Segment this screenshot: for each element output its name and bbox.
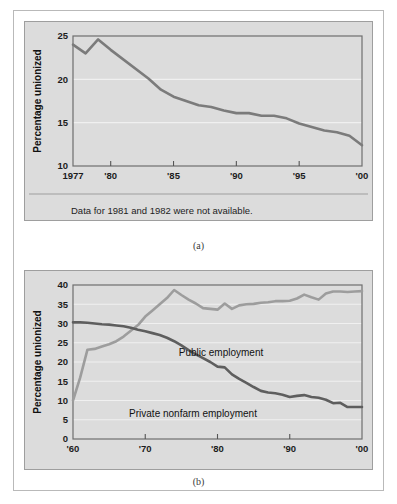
x-tick-label: '90	[283, 443, 296, 454]
y-tick-label: 40	[57, 279, 68, 290]
x-tick-label: '60	[67, 443, 80, 454]
figure-root: 101520251977'80'85'90'95'00Percentage un…	[0, 0, 397, 504]
y-tick-label: 30	[57, 318, 68, 329]
x-tick-label: '90	[230, 170, 243, 181]
y-tick-label: 5	[63, 414, 69, 425]
y-axis-title: Percentage unionized	[32, 310, 43, 413]
chart-b-panel: 0510152025303540'60'70'80'90'00Percentag…	[24, 270, 373, 470]
chart-note: Data for 1981 and 1982 were not availabl…	[71, 205, 253, 216]
y-axis: 0510152025303540	[57, 279, 68, 444]
y-tick-label: 25	[57, 30, 68, 41]
chart-a-plot: 101520251977'80'85'90'95'00Percentage un…	[25, 22, 372, 220]
y-tick-label: 20	[57, 356, 68, 367]
x-tick-label: 1977	[62, 170, 83, 181]
x-tick-label: '00	[356, 443, 369, 454]
y-tick-label: 15	[57, 117, 68, 128]
x-tick-label: '70	[139, 443, 152, 454]
y-tick-label: 20	[57, 74, 68, 85]
series-annotation-1: Private nonfarm employment	[129, 408, 257, 419]
chart-b-plot: 0510152025303540'60'70'80'90'00Percentag…	[25, 271, 372, 469]
y-tick-label: 25	[57, 337, 68, 348]
y-tick-label: 10	[57, 395, 68, 406]
chart-a-caption: (a)	[0, 240, 397, 251]
y-axis-title: Percentage unionized	[32, 49, 43, 152]
chart-a-panel: 101520251977'80'85'90'95'00Percentage un…	[24, 21, 373, 221]
y-tick-label: 15	[57, 376, 68, 387]
chart-b-caption: (b)	[0, 476, 397, 487]
y-axis: 10152025	[57, 30, 68, 171]
x-tick-label: '95	[293, 170, 307, 181]
series-annotation-0: Public employment	[179, 347, 264, 358]
y-tick-label: 35	[57, 299, 68, 310]
x-tick-label: '85	[167, 170, 181, 181]
x-tick-label: '80	[104, 170, 117, 181]
x-tick-label: '00	[356, 170, 369, 181]
x-tick-label: '80	[211, 443, 224, 454]
